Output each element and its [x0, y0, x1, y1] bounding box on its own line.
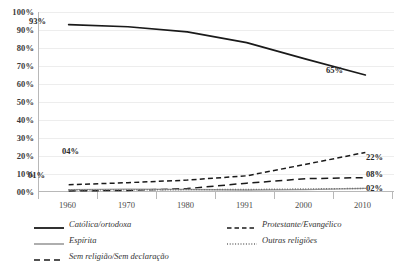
series-protestante — [69, 152, 366, 184]
legend-swatch-solid-black-icon — [34, 219, 64, 229]
legend-swatch-dotted-icon — [227, 235, 257, 245]
data-label-catolica-2010: 65% — [326, 65, 343, 75]
x-axis-tick — [333, 192, 334, 199]
series-catolica — [69, 25, 366, 75]
chart-legend: Católica/ortodoxa Espírita Sem religião/… — [34, 218, 394, 266]
y-axis-tick-label: 30% — [0, 133, 34, 143]
legend-item-outras-religioes[interactable]: Outras religiões — [227, 234, 317, 246]
line-protestante-evangelico — [69, 152, 366, 184]
data-label-catolica-1960: 93% — [29, 16, 46, 26]
data-label-protestante-2010: 22% — [366, 152, 383, 162]
x-axis-label-2010: 2010 — [354, 200, 371, 210]
y-axis-tick-label: 90% — [0, 25, 34, 35]
x-axis-label-1980: 1980 — [177, 200, 194, 210]
y-axis-tick-label: 60% — [0, 79, 34, 89]
y-axis-tick-label: 70% — [0, 61, 34, 71]
x-axis-tick — [274, 192, 275, 199]
religion-trend-line-chart: 100% 90% 80% 70% 60% 50% 40% 30% 20% 10%… — [0, 0, 394, 266]
legend-item-sem-religiao-sem-declaracao[interactable]: Sem religião/Sem declaração — [34, 250, 169, 262]
legend-swatch-dashed-long-icon — [34, 251, 64, 261]
y-axis-tick-label: 20% — [0, 151, 34, 161]
x-axis-label-1960: 1960 — [59, 200, 76, 210]
legend-item-catolica-ortodoxa[interactable]: Católica/ortodoxa — [34, 218, 131, 230]
legend-item-espirita[interactable]: Espírita — [34, 234, 96, 246]
data-label-protestante-1960: 04% — [62, 146, 79, 156]
x-axis-tick — [392, 192, 393, 199]
y-axis-tick-label: 50% — [0, 97, 34, 107]
line-catolica-ortodoxa — [69, 25, 366, 75]
y-axis-tick-label: 80% — [0, 43, 34, 53]
x-axis-tick — [215, 192, 216, 199]
data-label-semreligiao-1960: 01% — [28, 170, 45, 180]
x-axis-tick — [38, 192, 39, 199]
x-axis-tick — [97, 192, 98, 199]
legend-label: Sem religião/Sem declaração — [69, 251, 169, 261]
legend-label: Católica/ortodoxa — [69, 219, 131, 229]
y-axis-tick-label: 40% — [0, 115, 34, 125]
x-axis-label-1970: 1970 — [118, 200, 135, 210]
legend-swatch-dashed-icon — [227, 219, 257, 229]
legend-label: Outras religiões — [262, 235, 317, 245]
x-axis-label-2000: 2000 — [295, 200, 312, 210]
x-axis-tick — [156, 192, 157, 199]
x-axis: 1960 1970 1980 1991 2000 2010 — [38, 192, 394, 214]
y-axis: 100% 90% 80% 70% 60% 50% 40% 30% 20% 10%… — [0, 12, 34, 192]
y-axis-tick-label: 00% — [0, 187, 34, 197]
series-lines — [39, 12, 394, 192]
data-label-semreligiao-2010: 08% — [366, 169, 383, 179]
plot-area: 93% 65% 04% 22% 01% 08% 02% — [38, 12, 394, 192]
legend-swatch-solid-gray-icon — [34, 235, 64, 245]
legend-item-protestante-evangelico[interactable]: Protestante/Evangélico — [227, 218, 341, 230]
legend-label: Protestante/Evangélico — [262, 219, 341, 229]
x-axis-label-1991: 1991 — [236, 200, 253, 210]
legend-label: Espírita — [69, 235, 96, 245]
